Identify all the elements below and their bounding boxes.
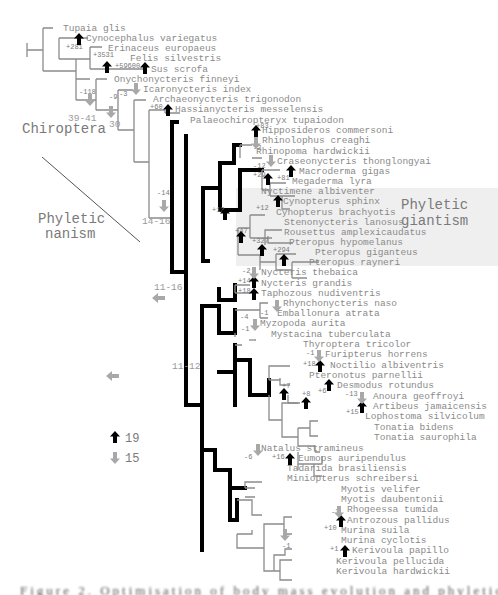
svg-text:Myzopoda aurita: Myzopoda aurita <box>260 318 346 329</box>
svg-text:-4: -4 <box>240 313 248 321</box>
legend: 19 15 <box>110 431 139 466</box>
svg-text:-9: -9 <box>109 93 117 101</box>
svg-text:+18: +18 <box>303 360 316 368</box>
svg-text:-1: -1 <box>241 325 249 333</box>
svg-text:Rhogeessa tumida: Rhogeessa tumida <box>347 504 439 515</box>
svg-text:-118: -118 <box>79 88 96 96</box>
svg-text:Kerivoula papillo: Kerivoula papillo <box>352 545 449 556</box>
svg-text:+3531: +3531 <box>93 51 114 59</box>
svg-text:+60: +60 <box>150 103 163 111</box>
svg-text:+6: +6 <box>318 387 326 395</box>
svg-text:Furipterus horrens: Furipterus horrens <box>325 349 428 360</box>
svg-text:-1: -1 <box>282 542 290 550</box>
arrow-left-icon <box>152 293 165 303</box>
svg-text:+8: +8 <box>302 390 310 398</box>
svg-text:14-16: 14-16 <box>142 216 171 227</box>
svg-text:-2: -2 <box>242 267 250 275</box>
svg-text:Kerivoula hardwickii: Kerivoula hardwickii <box>336 566 450 577</box>
phylogenetic-tree: Tupaia glis Cynocephalus variegatus Erin… <box>0 0 498 595</box>
svg-text:+16: +16 <box>272 453 285 461</box>
svg-text:+59600: +59600 <box>115 62 140 70</box>
legend-decrease-count: 15 <box>125 452 139 466</box>
arrow-down-icon <box>106 106 116 118</box>
arrow-up-icon <box>102 61 112 73</box>
svg-text:Tonatia saurophila: Tonatia saurophila <box>374 432 477 443</box>
arrow-down-icon <box>280 529 290 541</box>
phyletic-giantism-label-2: giantism <box>401 213 468 229</box>
arrow-down-icon <box>357 392 367 404</box>
svg-text:-13: -13 <box>345 390 358 398</box>
svg-text:+1: +1 <box>330 545 338 553</box>
svg-text:+10: +10 <box>324 524 337 532</box>
svg-text:Lophostoma silvicolum: Lophostoma silvicolum <box>365 411 485 422</box>
figure-caption: Figure 2. Optimisation of body mass evol… <box>20 583 498 595</box>
svg-text:-6: -6 <box>244 453 252 461</box>
svg-text:-1: -1 <box>260 309 268 317</box>
svg-text:11-16: 11-16 <box>154 282 183 293</box>
legend-arrow-down-icon <box>110 452 120 464</box>
legend-arrow-up-icon <box>110 431 120 443</box>
legend-increase-count: 19 <box>125 432 139 446</box>
svg-text:-1: -1 <box>306 349 314 357</box>
svg-text:-14: -14 <box>157 189 170 197</box>
svg-text:Hassianycteris messelensis: Hassianycteris messelensis <box>175 104 323 115</box>
svg-text:+18: +18 <box>238 287 251 295</box>
phyletic-nanism-label-1: Phyletic <box>38 211 105 227</box>
chiroptera-label: Chiroptera <box>22 121 106 137</box>
svg-text:-3: -3 <box>119 90 127 98</box>
svg-text:+15: +15 <box>346 408 359 416</box>
svg-text:30: 30 <box>109 119 121 130</box>
arrow-up-icon <box>301 397 311 409</box>
svg-text:+81: +81 <box>277 174 290 182</box>
phyletic-giantism-label-1: Phyletic <box>401 197 468 213</box>
svg-text:Cynopterus sphinx: Cynopterus sphinx <box>283 196 380 207</box>
svg-text:+12: +12 <box>256 204 269 212</box>
svg-text:Felis silvestris: Felis silvestris <box>130 53 221 64</box>
phyletic-nanism-label-2: nanism <box>45 226 95 242</box>
svg-text:+14: +14 <box>238 277 251 285</box>
svg-text:Nycteris thebaica: Nycteris thebaica <box>261 267 358 278</box>
bat-backbone-thick <box>172 122 269 550</box>
svg-text:Miniopterus schreibersi: Miniopterus schreibersi <box>287 473 418 484</box>
svg-text:+7: +7 <box>282 382 290 390</box>
arrow-down-icon <box>250 319 260 331</box>
svg-text:+327: +327 <box>252 237 269 245</box>
svg-text:11-12: 11-12 <box>172 361 201 372</box>
arrow-down-icon <box>159 200 169 212</box>
svg-text:Rhinolophus creaghi: Rhinolophus creaghi <box>262 135 371 146</box>
age-arrows <box>106 293 165 381</box>
svg-text:-12: -12 <box>253 162 266 170</box>
svg-text:+294: +294 <box>273 246 290 254</box>
arrow-left-icon <box>106 371 119 381</box>
